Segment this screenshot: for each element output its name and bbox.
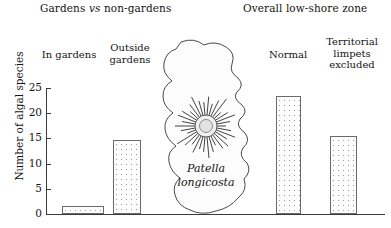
y-tick-label: 0: [12, 207, 42, 219]
y-tick-mark: [46, 138, 51, 139]
bar: [113, 140, 141, 214]
y-tick-label: 15: [12, 131, 42, 143]
bar: [62, 206, 104, 214]
group-title-left-post: non-gardens: [100, 2, 171, 14]
y-tick-mark: [46, 113, 51, 114]
y-tick-label: 20: [12, 106, 42, 118]
y-tick-mark: [46, 164, 51, 165]
bar-caption-territorial-limpets-excluded: Territorial limpets excluded: [316, 36, 388, 71]
y-tick-mark: [46, 189, 51, 190]
algal-garden-blob: Patella longicosta: [150, 38, 262, 216]
y-tick-mark: [46, 214, 51, 215]
limpet-shell-icon: [174, 94, 238, 158]
bar-caption-normal: Normal: [258, 49, 318, 61]
bar: [330, 136, 357, 214]
y-tick-label: 25: [12, 81, 42, 93]
y-tick-label: 10: [12, 157, 42, 169]
bar: [276, 96, 301, 214]
group-title-left-pre: Gardens: [40, 2, 89, 14]
group-title-gardens-vs-non-gardens: Gardens vs non-gardens: [40, 2, 171, 14]
species-name-label: Patella longicosta: [152, 162, 260, 190]
y-tick-mark: [46, 88, 51, 89]
group-title-left-emphasis: vs: [89, 2, 101, 14]
algal-species-bar-figure: Gardens vs non-gardens Overall low-shore…: [0, 0, 391, 228]
y-axis-line: [46, 88, 47, 215]
group-title-overall-low-shore-zone: Overall low-shore zone: [243, 2, 367, 14]
bar-caption-in-gardens: In gardens: [38, 49, 100, 61]
y-tick-label: 5: [12, 182, 42, 194]
